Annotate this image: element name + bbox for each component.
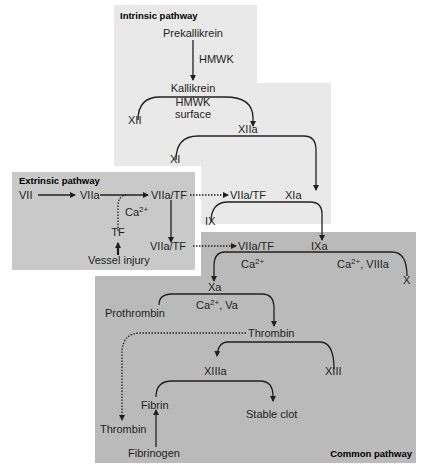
label-xii: XII (128, 114, 141, 126)
label-hmwk-cofactor: HMWK (176, 96, 211, 108)
label-fibrinogen: Fibrinogen (128, 447, 180, 459)
label-surface: surface (175, 108, 211, 120)
label-viia-tf-4: VIIa/TF (238, 240, 274, 252)
label-ix: IX (205, 215, 216, 227)
label-xa: Xa (208, 281, 222, 293)
label-stable-clot: Stable clot (246, 408, 297, 420)
label-xi: XI (170, 153, 180, 165)
label-xiiia: XIIIa (204, 365, 228, 377)
label-kallikrein: Kallikrein (171, 82, 216, 94)
label-tf: TF (111, 226, 125, 238)
extrinsic-pathway-title: Extrinsic pathway (19, 175, 100, 186)
label-xia: XIa (285, 189, 302, 201)
label-viia-tf-1: VIIa/TF (151, 189, 187, 201)
label-ca-viiia: Ca2+, VIIIa (337, 257, 390, 270)
label-fibrin: Fibrin (141, 399, 169, 411)
label-thrombin-2: Thrombin (100, 423, 146, 435)
common-pathway-title: Common pathway (330, 448, 413, 459)
label-hmwk: HMWK (199, 53, 234, 65)
label-vessel-injury: Vessel injury (88, 254, 150, 266)
label-prothrombin: Prothrombin (105, 307, 165, 319)
intrinsic-pathway-title: Intrinsic pathway (120, 10, 198, 21)
label-x: X (403, 274, 411, 286)
label-viia: VIIa (80, 189, 100, 201)
label-xiii: XIII (325, 365, 342, 377)
label-thrombin: Thrombin (248, 327, 294, 339)
label-vii: VII (19, 189, 32, 201)
coagulation-cascade-diagram: Intrinsic pathway Extrinsic pathway Comm… (0, 0, 426, 475)
label-ixa: IXa (311, 240, 328, 252)
label-xiia: XIIa (238, 123, 258, 135)
label-prekallikrein: Prekallikrein (163, 27, 223, 39)
label-viia-tf-3: VIIa/TF (150, 240, 186, 252)
label-viia-tf-2: VIIa/TF (230, 189, 266, 201)
